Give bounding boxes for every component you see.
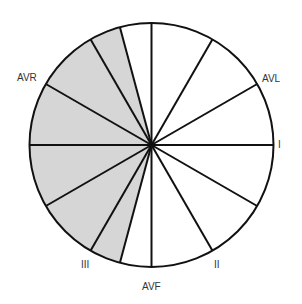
label-lead-iii: III: [81, 260, 89, 270]
label-lead-avf: AVF: [142, 282, 161, 292]
label-lead-avl: AVL: [262, 74, 280, 84]
spoke-30: [152, 84, 258, 145]
label-lead-ii: II: [214, 260, 220, 270]
hexaxial-wheel: [0, 0, 302, 304]
spoke-300: [152, 145, 213, 251]
spoke-60: [152, 39, 213, 145]
label-lead-avr: AVR: [17, 73, 37, 83]
spoke-330: [152, 145, 258, 206]
label-lead-i: I: [278, 140, 281, 150]
